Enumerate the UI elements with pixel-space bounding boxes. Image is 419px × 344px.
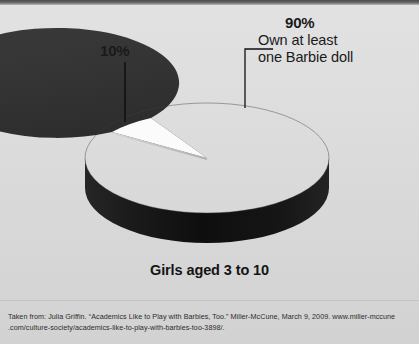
citation-line-2: .com/culture-society/academics-like-to-p…	[8, 322, 416, 333]
citation-line-1: Taken from: Julia Griffin. “Academics Li…	[8, 311, 416, 322]
footer-divider	[0, 300, 419, 301]
source-citation: Taken from: Julia Griffin. “Academics Li…	[8, 311, 416, 333]
callout-90-percent-value: 90%	[285, 14, 353, 32]
callout-90-desc-line2: one Barbie doll	[258, 49, 353, 66]
pie-side-wall	[85, 158, 329, 243]
callout-10-percent: 10%	[100, 42, 129, 61]
chart-plot-area: 90% Own at least one Barbie doll 10% Gir…	[0, 0, 419, 300]
pie-chart-figure: 90% Own at least one Barbie doll 10% Gir…	[0, 0, 419, 344]
pie-chart-graphic	[0, 0, 419, 300]
chart-title: Girls aged 3 to 10	[0, 262, 419, 278]
callout-90-percent: 90% Own at least one Barbie doll	[258, 14, 353, 66]
callout-90-desc-line1: Own at least	[258, 32, 353, 49]
callout-10-percent-value: 10%	[100, 42, 129, 59]
